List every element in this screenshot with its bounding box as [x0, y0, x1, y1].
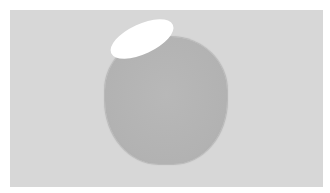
image-canvas — [0, 0, 330, 193]
